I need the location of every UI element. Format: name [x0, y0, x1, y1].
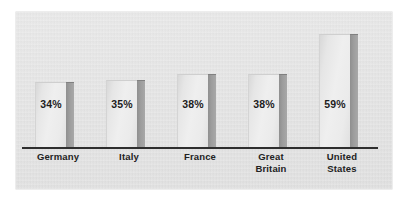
bar-value-label: 35% [107, 99, 137, 110]
bar-column[interactable]: 35% [106, 80, 144, 147]
x-axis-category-labels: GermanyItalyFranceGreatBritainUnitedStat… [22, 151, 378, 189]
bar-side-shadow [279, 74, 287, 147]
bar-great-britain[interactable]: 38% [240, 11, 302, 147]
chart-panel: 34%35%38%38%59% GermanyItalyFranceGreatB… [16, 12, 392, 189]
bar-column[interactable]: 38% [248, 74, 286, 147]
category-label-line: Britain [240, 163, 302, 175]
bar-face: 38% [177, 74, 208, 147]
bar-face: 59% [319, 34, 350, 147]
category-label-italy: Italy [98, 151, 160, 163]
bar-column[interactable]: 38% [177, 74, 215, 147]
bar-side-shadow [208, 74, 216, 147]
bar-united-states[interactable]: 59% [311, 11, 373, 147]
category-label-france: France [169, 151, 231, 163]
bar-value-label: 38% [178, 99, 208, 110]
category-label-line: Great [240, 151, 302, 163]
bar-column[interactable]: 34% [35, 82, 73, 147]
bar-chart-figure: 34%35%38%38%59% GermanyItalyFranceGreatB… [0, 0, 410, 203]
category-label-line: States [311, 163, 373, 175]
bar-series: 34%35%38%38%59% [22, 12, 378, 148]
bar-italy[interactable]: 35% [98, 11, 160, 147]
category-label-united-states: UnitedStates [311, 151, 373, 174]
bar-germany[interactable]: 34% [27, 11, 89, 147]
bar-face: 35% [106, 80, 137, 147]
bar-value-label: 59% [320, 99, 350, 110]
bar-side-shadow [137, 80, 145, 147]
category-label-line: Italy [98, 151, 160, 163]
bar-face: 34% [35, 82, 66, 147]
bar-value-label: 34% [36, 99, 66, 110]
bar-side-shadow [350, 34, 358, 147]
bar-face: 38% [248, 74, 279, 147]
category-label-great-britain: GreatBritain [240, 151, 302, 174]
bar-column[interactable]: 59% [319, 34, 357, 147]
category-label-line: France [169, 151, 231, 163]
x-axis-baseline [22, 147, 378, 149]
bar-value-label: 38% [249, 99, 279, 110]
category-label-line: United [311, 151, 373, 163]
bar-france[interactable]: 38% [169, 11, 231, 147]
category-label-line: Germany [27, 151, 89, 163]
category-label-germany: Germany [27, 151, 89, 163]
bar-side-shadow [66, 82, 74, 147]
plot-area: 34%35%38%38%59% GermanyItalyFranceGreatB… [16, 12, 392, 189]
